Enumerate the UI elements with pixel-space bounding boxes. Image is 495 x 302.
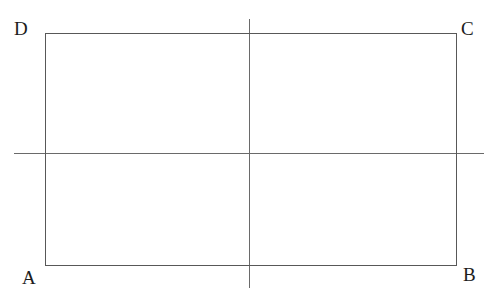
geometry-diagram	[0, 0, 495, 302]
rectangle-abcd	[46, 34, 457, 266]
figure-canvas: D C A B	[0, 0, 495, 302]
vertex-label-b: B	[463, 265, 476, 284]
vertex-label-c: C	[461, 19, 474, 38]
vertex-label-d: D	[14, 19, 28, 38]
vertex-label-a: A	[22, 268, 36, 287]
